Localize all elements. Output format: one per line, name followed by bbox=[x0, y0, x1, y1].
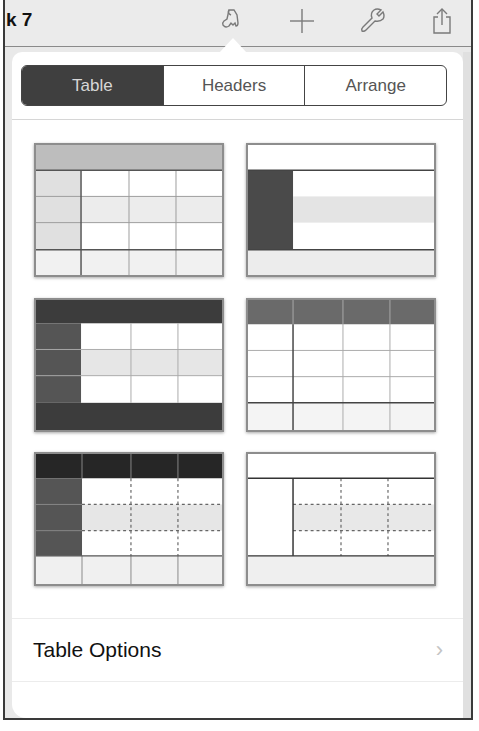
app-window: k 7 bbox=[3, 0, 473, 720]
tab-table[interactable]: Table bbox=[22, 66, 163, 105]
plus-icon[interactable] bbox=[287, 6, 317, 36]
table-style-4[interactable] bbox=[246, 298, 436, 432]
divider bbox=[12, 681, 463, 682]
table-style-3[interactable] bbox=[34, 298, 224, 432]
table-style-5[interactable] bbox=[34, 452, 224, 586]
paintbrush-icon[interactable] bbox=[216, 6, 246, 36]
screen: k 7 bbox=[0, 0, 479, 731]
chevron-right-icon: › bbox=[436, 637, 443, 663]
divider bbox=[12, 119, 463, 120]
document-title: k 7 bbox=[6, 9, 32, 31]
table-options-row[interactable]: Table Options › bbox=[12, 619, 463, 681]
table-style-1[interactable] bbox=[34, 143, 224, 277]
wrench-icon[interactable] bbox=[357, 6, 387, 36]
table-style-6[interactable] bbox=[246, 452, 436, 586]
popover-edge-shade bbox=[463, 52, 471, 718]
tab-arrange[interactable]: Arrange bbox=[304, 66, 446, 105]
popover-arrow bbox=[219, 38, 247, 53]
tab-headers[interactable]: Headers bbox=[163, 66, 305, 105]
format-popover: Table Headers Arrange bbox=[12, 52, 463, 718]
share-icon[interactable] bbox=[427, 6, 457, 36]
table-options-label: Table Options bbox=[33, 638, 161, 662]
table-style-2[interactable] bbox=[246, 143, 436, 277]
format-segmented-control: Table Headers Arrange bbox=[21, 65, 447, 106]
